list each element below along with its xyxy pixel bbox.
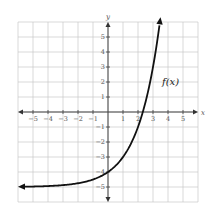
curve-arrowheads — [18, 17, 163, 190]
function-label: f(x) — [161, 76, 179, 87]
y-tick-label: −5 — [95, 183, 105, 191]
x-axis-arrow-right-icon — [193, 110, 198, 115]
x-tick-label: 4 — [166, 115, 170, 123]
x-axis-label: x — [201, 109, 205, 117]
y-tick-label: 3 — [101, 63, 105, 71]
y-tick-label: −3 — [95, 153, 105, 161]
x-tick-label: −2 — [73, 115, 83, 123]
curve-arrow-up-icon — [156, 17, 162, 24]
x-tick-label: −1 — [88, 115, 98, 123]
x-tick-label: −3 — [58, 115, 68, 123]
x-axis-arrow-left-icon — [18, 110, 23, 115]
x-tick-label: 1 — [121, 115, 125, 123]
curve-arrow-left-icon — [18, 183, 25, 189]
function-curve — [22, 25, 160, 186]
x-tick-label: −4 — [43, 115, 53, 123]
y-tick-label: 4 — [101, 48, 105, 56]
y-tick-label: 5 — [101, 33, 105, 41]
y-tick-label: −2 — [95, 138, 105, 146]
x-tick-label: 3 — [151, 115, 155, 123]
y-tick-label: 2 — [101, 78, 105, 86]
y-axis-label: y — [105, 13, 111, 21]
y-tick-label: −1 — [95, 123, 105, 131]
y-axis-arrow-up-icon — [106, 22, 111, 27]
x-tick-label: 5 — [181, 115, 185, 123]
axes — [18, 22, 198, 202]
function-graph: −5−4−3−2−112345−5−4−3−2−112345 x y f(x) — [0, 0, 212, 213]
x-tick-label: −5 — [28, 115, 38, 123]
y-tick-label: 1 — [101, 93, 105, 101]
y-axis-arrow-down-icon — [106, 197, 111, 202]
